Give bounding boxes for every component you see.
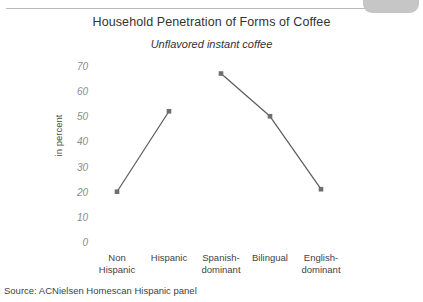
plot-area: 706050403020100 NonHispanicHispanicSpani…: [92, 60, 344, 245]
chart-figure: Household Penetration of Forms of Coffee…: [0, 0, 423, 302]
y-tick-label: 30: [62, 161, 88, 172]
y-tick-label: 70: [62, 61, 88, 72]
page-corner-tab: [363, 0, 419, 13]
y-tick-label: 10: [62, 211, 88, 222]
page-top-rule: [6, 8, 410, 9]
chart-subtitle: Unflavored instant coffee: [0, 38, 423, 50]
y-tick-label: 40: [62, 136, 88, 147]
y-tick-label: 50: [62, 111, 88, 122]
x-tick-label: English-dominant: [284, 252, 358, 275]
y-tick-label: 0: [62, 237, 88, 248]
chart-title: Household Penetration of Forms of Coffee: [0, 15, 423, 29]
y-tick-label: 60: [62, 86, 88, 97]
source-note: Source: ACNielsen Homescan Hispanic pane…: [4, 285, 197, 296]
y-tick-label: 20: [62, 186, 88, 197]
